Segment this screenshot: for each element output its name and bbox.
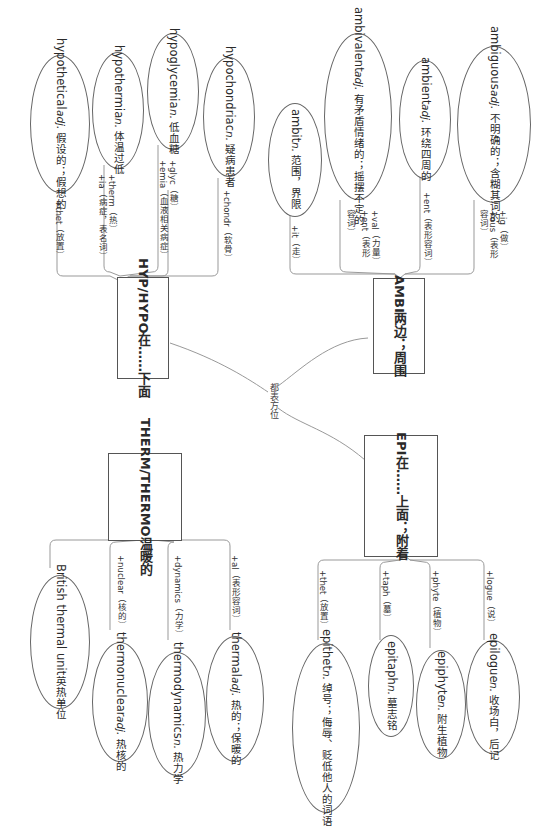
leaf-british-thermal-unit[interactable]: British thermal unit 英热单位 <box>30 575 90 709</box>
word: ambit <box>289 109 302 142</box>
leaf-hypoglycemia[interactable]: hypoglycemia n. 低血糖 <box>147 33 199 150</box>
root-epi-line3: 附着 <box>392 534 410 560</box>
affix-label: +ia（病症，表名词） <box>97 174 107 261</box>
pos: adj. <box>489 90 501 109</box>
pos: adj. <box>420 104 432 123</box>
definition: 体温过低 <box>113 132 125 176</box>
affix-label: +thet（放置） <box>54 200 64 260</box>
leaf-epithet[interactable]: epithet n. 绰号； 侮辱、贬低他人的词语 <box>292 643 360 813</box>
leaf-hypochondriac[interactable]: hypochondriac n. 疑病患者 <box>203 57 255 177</box>
word: hypochondriac <box>223 46 236 131</box>
definition: 范围，界限 <box>290 156 302 211</box>
root-node-epi[interactable]: EPI 在……上面； 附着 <box>364 435 438 557</box>
leaf-hypothermia[interactable]: hypothermia n. 体温过低 <box>92 52 144 169</box>
pos: n. <box>168 109 180 119</box>
definition: 有矛盾情绪的； <box>353 94 365 171</box>
affix-label: +ent（表形 <box>360 210 370 258</box>
affix-label: +ent（表形容词） <box>422 192 432 267</box>
definition: 收场白，后记 <box>488 695 500 761</box>
definition: 绰号； <box>321 684 333 717</box>
word: thermodynamics <box>171 642 184 739</box>
word: thermonuclear <box>114 632 127 717</box>
root-node-hypo[interactable]: HYP/HYPO 在……下面 <box>117 277 169 379</box>
affix-label: +thet（放置） <box>318 570 328 630</box>
root-therm-line2: THERMO <box>136 474 154 537</box>
leaf-ambit[interactable]: ambit n. 范围，界限 <box>268 103 322 217</box>
leaf-ambivalent[interactable]: ambivalent adj. 有矛盾情绪的； 摇摆不定的 <box>324 33 392 200</box>
pos: n. <box>386 685 398 695</box>
definition: 低血糖 <box>168 122 180 155</box>
affix-label: +emia（血液相关病症） <box>158 160 168 260</box>
word: hypothetical <box>54 38 67 110</box>
definition: 墓志铭 <box>386 698 398 731</box>
word: epilogue <box>487 633 500 682</box>
leaf-ambiguous[interactable]: ambiguous adj. 不明确的； 含糊其词的 <box>457 46 531 203</box>
definition: 热的；保暖的 <box>230 700 242 766</box>
leaf-epilogue[interactable]: epilogue n. 收场白，后记 <box>466 640 520 754</box>
definition: 假设的；假想的 <box>55 133 67 210</box>
root-therm-line3: 温暖的 <box>136 537 154 576</box>
root-hypo-line1: HYP/HYPO <box>134 258 152 333</box>
center-label: 都表方位 <box>268 383 281 419</box>
affix-label: +it（走） <box>290 225 300 265</box>
affix-label: +al（表形容词） <box>230 555 240 624</box>
leaf-epiphyte[interactable]: epiphyte n. 附生植物 <box>416 650 466 759</box>
definition: 环绕四周的 <box>420 127 432 182</box>
definition: 热力学 <box>172 753 184 786</box>
definition: 英热单位 <box>54 676 67 720</box>
pos: n. <box>321 670 333 680</box>
affix-label: +ous（表形 <box>488 210 498 259</box>
word: British thermal unit <box>54 564 67 675</box>
affix-label: +phyte（植物） <box>431 570 441 638</box>
pos: n. <box>436 701 448 711</box>
pos: adj. <box>353 71 365 90</box>
pos: adj. <box>230 677 242 696</box>
word: thermal <box>229 632 242 677</box>
leaf-epitaph[interactable]: epitaph n. 墓志铭 <box>368 635 414 737</box>
word: ambivalent <box>352 7 365 72</box>
pos: adj. <box>55 110 67 129</box>
pos: n. <box>290 142 302 152</box>
affix-label: +taph（墓） <box>381 570 391 623</box>
word: ambiguous <box>488 26 501 90</box>
root-node-therm[interactable]: THERM/ THERMO 温暖的 <box>108 453 182 541</box>
word: hypothermia <box>112 45 125 118</box>
root-hypo-line2: 在……下面 <box>134 333 152 398</box>
leaf-hypothetical[interactable]: hypothetical adj. 假设的；假想的 <box>30 55 90 193</box>
affix-label: 容词） <box>478 210 488 237</box>
affix-label: +val（力量） <box>370 210 380 266</box>
root-node-ambi[interactable]: AMBI 两边；周围 <box>373 278 425 374</box>
pos: n. <box>172 739 184 749</box>
definition: 不明确的； <box>489 113 501 168</box>
leaf-thermodynamics[interactable]: thermodynamics n. 热力学 <box>148 652 206 776</box>
affix-label: +therm（热） <box>107 174 117 234</box>
definition: 附生植物 <box>436 714 448 758</box>
root-ambi-line1: AMBI <box>390 275 408 313</box>
leaf-thermonuclear[interactable]: thermonuclear adj. 热核的 <box>92 642 148 762</box>
word: hypoglycemia <box>167 28 180 109</box>
pos: n. <box>224 131 236 141</box>
definition: 热核的 <box>115 739 127 772</box>
pos: n. <box>113 118 125 128</box>
leaf-ambient[interactable]: ambient adj. 环绕四周的 <box>399 60 451 179</box>
leaf-thermal[interactable]: thermal adj. 热的；保暖的 <box>206 636 264 762</box>
word: ambient <box>419 57 432 105</box>
affix-label: +glyc（糖） <box>168 160 178 212</box>
word: epiphyte <box>435 651 448 702</box>
word: epithet <box>320 629 333 670</box>
affix-label: +nuclear（核的） <box>116 555 126 630</box>
definition-cont: 侮辱、贬低他人的词语 <box>320 717 333 827</box>
word: epitaph <box>385 641 398 685</box>
root-therm-line1: THERM/ <box>136 418 154 474</box>
root-epi-line2: 在……上面； <box>392 456 410 534</box>
affix-label: +ig（做） <box>498 210 508 252</box>
affix-label: +logue（说） <box>485 570 495 628</box>
root-epi-line1: EPI <box>392 432 410 455</box>
pos: adj. <box>115 716 127 735</box>
root-ambi-line2: 两边；周围 <box>390 312 408 377</box>
definition: 疑病患者 <box>224 144 236 188</box>
pos: n. <box>488 682 500 692</box>
affix-label: +dynamics（力学） <box>173 555 183 639</box>
affix-label: +chondr（软骨） <box>222 190 232 263</box>
